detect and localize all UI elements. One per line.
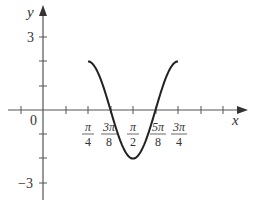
chart: y x 0 3 −3 π 4 3π 8 π 2 5π 8 3π 4: [0, 0, 254, 204]
svg-text:3π: 3π: [102, 120, 116, 134]
x-tick-label-pi-4: π 4: [82, 120, 94, 149]
svg-text:4: 4: [176, 135, 182, 149]
svg-text:2: 2: [130, 135, 136, 149]
y-tick-label-neg3: −3: [18, 176, 33, 191]
origin-label: 0: [30, 113, 37, 128]
y-axis-label: y: [25, 4, 34, 20]
svg-text:8: 8: [106, 135, 112, 149]
svg-text:3π: 3π: [172, 120, 186, 134]
svg-text:8: 8: [155, 135, 161, 149]
svg-text:5π: 5π: [152, 120, 165, 134]
x-tick-label-5pi-8: 5π 8: [150, 120, 166, 149]
x-tick-label-3pi-8: 3π 8: [101, 120, 117, 149]
y-tick-label-3: 3: [27, 30, 34, 45]
x-axis-label: x: [231, 112, 239, 128]
x-tick-label-pi-2: π 2: [127, 120, 139, 149]
svg-text:π: π: [85, 120, 92, 134]
x-tick-label-3pi-4: 3π 4: [171, 120, 187, 149]
y-axis-arrow-icon: [39, 5, 47, 16]
svg-text:4: 4: [85, 135, 91, 149]
svg-text:π: π: [130, 120, 137, 134]
